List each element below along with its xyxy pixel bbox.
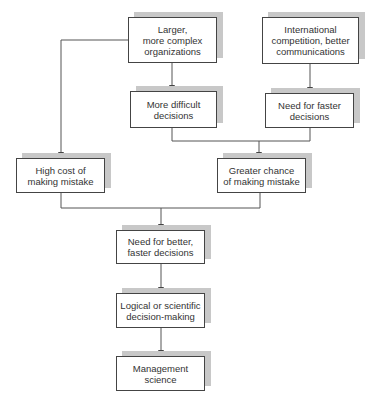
flowchart-diagram: Larger, more complex organizations Inter… [0, 0, 375, 406]
node-text-line: decisions [290, 111, 330, 122]
node-text-line: decisions [154, 110, 194, 121]
node-text-line: Management [133, 363, 188, 374]
node-text-line: communications [276, 46, 345, 57]
box-international-competition: International competition, better commun… [262, 17, 359, 64]
node-text-line: competition, better [271, 35, 349, 46]
node-text-line: of making mistake [223, 176, 300, 187]
edge-join-to-greater-chance [172, 128, 310, 141]
edge-larger-to-highcost [61, 40, 128, 157]
box-greater-chance-mistake: Greater chance of making mistake [217, 158, 306, 193]
box-logical-scientific: Logical or scientific decision-making [116, 293, 205, 328]
box-need-faster-decisions: Need for faster decisions [265, 93, 354, 128]
box-management-science: Management science [116, 356, 205, 391]
node-text-line: Need for better, [128, 236, 193, 247]
box-larger-organizations: Larger, more complex organizations [128, 17, 217, 63]
node-text-line: High cost of [35, 165, 85, 176]
node-text-line: Need for faster [278, 100, 341, 111]
node-text-line: International [284, 24, 336, 35]
node-text-line: more complex [143, 35, 203, 46]
node-text-line: science [144, 374, 176, 385]
box-more-difficult-decisions: More difficult decisions [130, 91, 217, 128]
node-text-line: Greater chance [229, 165, 294, 176]
node-text-line: More difficult [147, 99, 201, 110]
node-text-line: decision-making [126, 311, 195, 322]
node-text-line: Larger, [158, 24, 188, 35]
node-text-line: organizations [144, 46, 201, 57]
edge-join-to-need-better [61, 193, 260, 208]
box-high-cost-mistake: High cost of making mistake [16, 158, 105, 193]
box-need-better-faster: Need for better, faster decisions [116, 230, 205, 264]
node-text-line: faster decisions [127, 247, 193, 258]
node-text-line: Logical or scientific [120, 300, 200, 311]
node-text-line: making mistake [28, 176, 94, 187]
